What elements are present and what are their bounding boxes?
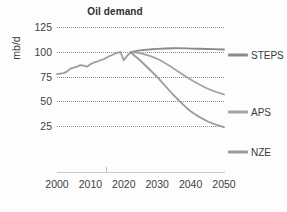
y-tick-label: 125 <box>12 21 52 33</box>
legend-label: APS <box>251 107 271 118</box>
y-tick-label: 75 <box>12 71 52 83</box>
legend-swatch-icon <box>228 54 248 56</box>
y-tick-label: 25 <box>12 120 52 132</box>
x-axis-tick-mark <box>106 167 107 172</box>
legend-entry-steps[interactable]: STEPS <box>228 50 284 61</box>
y-tick-label: 50 <box>12 95 52 107</box>
series-line-steps <box>130 48 224 52</box>
legend-swatch-icon <box>228 151 248 153</box>
y-tick-label: 100 <box>12 46 52 58</box>
chart-title: Oil demand <box>0 6 230 17</box>
plot-area <box>57 27 224 151</box>
legend-entry-nze[interactable]: NZE <box>228 147 271 158</box>
x-axis-line <box>57 172 225 173</box>
legend-label: STEPS <box>251 50 284 61</box>
series-lines <box>57 27 224 151</box>
legend-label: NZE <box>251 147 271 158</box>
series-line-historical <box>57 52 130 74</box>
series-line-aps <box>130 52 224 94</box>
legend-entry-aps[interactable]: APS <box>228 107 271 118</box>
x-tick-label: 2050 <box>204 178 244 190</box>
oil-demand-chart: Oil demand mb/d 125100755025 20002010202… <box>0 0 287 212</box>
legend-swatch-icon <box>228 111 248 113</box>
